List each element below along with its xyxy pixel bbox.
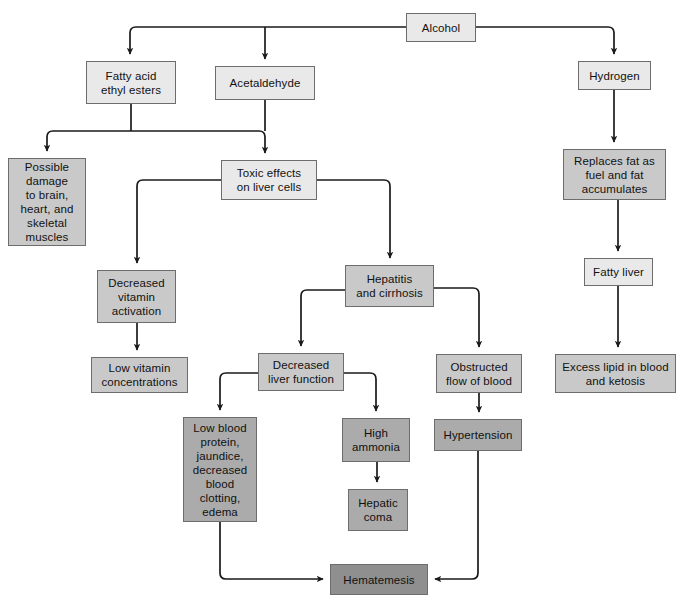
node-label-fatty_esters: Fatty acidethyl esters — [101, 69, 161, 97]
node-alcohol[interactable]: Alcohol — [406, 13, 476, 42]
node-label-hydrogen: Hydrogen — [589, 69, 640, 83]
edge-alcohol-to-hydrogen — [476, 27, 614, 54]
node-possible_damage[interactable]: Possibledamageto brain,heart, andskeleta… — [8, 158, 86, 246]
node-label-hematemesis: Hematemesis — [343, 573, 414, 587]
node-hypertension[interactable]: Hypertension — [434, 419, 522, 451]
node-hydrogen[interactable]: Hydrogen — [578, 61, 651, 90]
edge-toxic-to-decr-vitamin — [137, 180, 221, 263]
node-low_vitamin[interactable]: Low vitaminconcentrations — [91, 357, 188, 393]
node-label-replaces_fat: Replaces fat asfuel and fataccumulates — [574, 154, 655, 196]
node-hepatic_coma[interactable]: Hepaticcoma — [348, 489, 408, 531]
node-low_blood_prot[interactable]: Low bloodprotein,jaundice,decreasedblood… — [183, 417, 257, 522]
node-replaces_fat[interactable]: Replaces fat asfuel and fataccumulates — [563, 149, 666, 200]
edge-hepatitis-to-obstructed — [434, 288, 479, 347]
node-decr_liver_fn[interactable]: Decreasedliver function — [258, 353, 344, 391]
edge-decr-liver-fn-to-high-ammonia — [344, 373, 376, 411]
node-fatty_esters[interactable]: Fatty acidethyl esters — [86, 61, 176, 104]
node-label-acetaldehyde: Acetaldehyde — [230, 76, 301, 90]
node-label-decr_vitamin: Decreasedvitaminactivation — [108, 276, 165, 318]
node-label-obstructed: Obstructedflow of blood — [446, 360, 512, 388]
node-label-hepatitis: Hepatitisand cirrhosis — [356, 272, 423, 300]
node-high_ammonia[interactable]: Highammonia — [342, 418, 410, 462]
edge-toxic-to-hepatitis — [317, 180, 390, 258]
edge-low-blood-to-hematemesis — [220, 522, 323, 579]
node-label-toxic_effects: Toxic effectson liver cells — [237, 166, 302, 194]
node-hematemesis[interactable]: Hematemesis — [330, 564, 428, 595]
node-label-possible_damage: Possibledamageto brain,heart, andskeleta… — [21, 160, 74, 244]
edge-bus-to-toxic-column — [131, 131, 265, 153]
node-label-high_ammonia: Highammonia — [352, 426, 400, 454]
node-label-decr_liver_fn: Decreasedliver function — [268, 358, 334, 386]
node-excess_lipid[interactable]: Excess lipid in bloodand ketosis — [555, 354, 676, 393]
node-acetaldehyde[interactable]: Acetaldehyde — [215, 66, 315, 100]
flowchart-canvas: AlcoholFatty acidethyl estersAcetaldehyd… — [0, 0, 684, 615]
edge-hypertension-to-hematemesis — [435, 451, 478, 579]
node-toxic_effects[interactable]: Toxic effectson liver cells — [221, 160, 317, 200]
node-label-fatty_liver: Fatty liver — [593, 265, 644, 279]
node-hepatitis[interactable]: Hepatitisand cirrhosis — [345, 265, 434, 307]
node-label-hypertension: Hypertension — [444, 428, 513, 442]
node-decr_vitamin[interactable]: Decreasedvitaminactivation — [97, 270, 176, 323]
node-label-hepatic_coma: Hepaticcoma — [358, 496, 398, 524]
node-label-low_blood_prot: Low bloodprotein,jaundice,decreasedblood… — [193, 421, 248, 519]
edge-hepatitis-to-decr-liver-fn — [301, 290, 345, 346]
node-label-excess_lipid: Excess lipid in bloodand ketosis — [562, 360, 668, 388]
edge-decr-liver-fn-to-low-blood — [220, 373, 258, 410]
node-obstructed[interactable]: Obstructedflow of blood — [436, 354, 522, 393]
node-label-alcohol: Alcohol — [422, 21, 460, 35]
edge-alcohol-to-fatty-esters — [130, 27, 406, 54]
node-fatty_liver[interactable]: Fatty liver — [584, 258, 653, 286]
node-label-low_vitamin: Low vitaminconcentrations — [101, 361, 177, 389]
edge-bus-to-possible-damage — [47, 131, 131, 151]
